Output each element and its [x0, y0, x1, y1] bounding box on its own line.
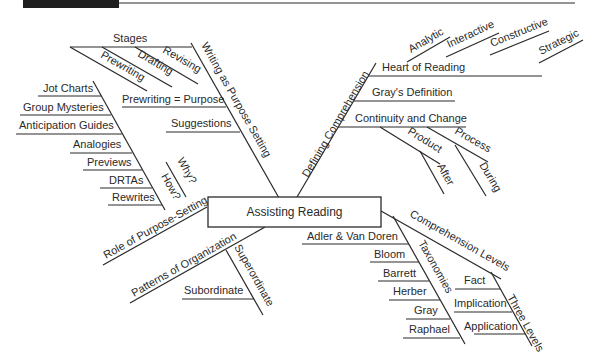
grays-definition-label: Gray's Definition: [372, 86, 452, 98]
stages-label: Stages: [113, 32, 148, 44]
taxonomy-item-adler: Adler & Van Doren: [307, 230, 398, 242]
header-bar: [23, 0, 119, 8]
heart-item-interactive: Interactive: [445, 17, 496, 49]
branch-role: Role of Purpose-Setting How? Jot Charts …: [16, 81, 209, 265]
subordinate-label: Subordinate: [184, 284, 243, 296]
branch-patterns: Patterns of Organization Superordinate S…: [129, 227, 277, 315]
how-item-previews: Previews: [87, 156, 132, 168]
level-item-implication: Implication: [454, 297, 507, 309]
taxonomy-item-gray: Gray: [414, 304, 438, 316]
center-label: Assisting Reading: [246, 205, 342, 219]
why-label: Why?: [175, 155, 199, 185]
suggestions-label: Suggestions: [171, 117, 232, 129]
superordinate-label: Superordinate: [232, 242, 276, 308]
heart-item-analytic: Analytic: [406, 25, 446, 55]
branch-defining: Defining Comprehension Heart of Reading …: [297, 15, 583, 197]
how-item-jot-charts: Jot Charts: [43, 82, 94, 94]
mind-map: Writing as Purpose Setting Stages Prewri…: [0, 0, 602, 359]
taxonomy-item-barrett: Barrett: [383, 267, 416, 279]
how-item-analogies: Analogies: [73, 138, 122, 150]
taxonomy-item-bloom: Bloom: [374, 248, 405, 260]
how-item-anticipation-guides: Anticipation Guides: [19, 119, 114, 131]
taxonomy-item-herber: Herber: [393, 285, 427, 297]
level-item-fact: Fact: [464, 274, 485, 286]
branch-levels: Comprehension Levels Taxonomies Adler & …: [302, 207, 547, 354]
heart-label: Heart of Reading: [382, 61, 465, 73]
center-node: Assisting Reading: [208, 197, 381, 227]
branch-role-label: Role of Purpose-Setting: [101, 194, 209, 261]
level-item-application: Application: [464, 320, 518, 332]
taxonomy-item-raphael: Raphael: [409, 323, 450, 335]
prewriting-purpose-label: Prewriting = Purpose: [122, 93, 224, 105]
how-item-group-mysteries: Group Mysteries: [23, 101, 104, 113]
how-item-drtas: DRTAs: [109, 174, 144, 186]
process-label: Process: [453, 124, 494, 155]
how-item-rewrites: Rewrites: [112, 191, 155, 203]
product-label: Product: [406, 125, 445, 155]
continuity-label: Continuity and Change: [355, 112, 467, 124]
